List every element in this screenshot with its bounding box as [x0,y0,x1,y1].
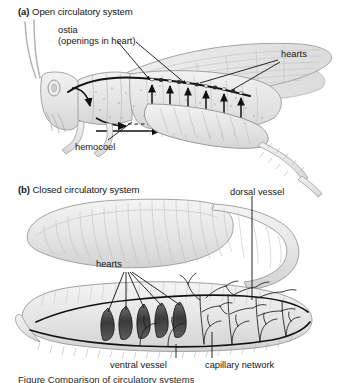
label-hearts-b: hearts [96,259,122,270]
label-ostia-line2: (openings in heart) [58,36,136,47]
label-dorsal-vessel: dorsal vessel [230,187,284,198]
earthworm-illustration [15,196,312,359]
label-ostia-line1: ostia [58,25,136,36]
label-hearts-a: hearts [281,49,307,60]
head [41,72,80,130]
label-ostia: ostia (openings in heart) [58,25,136,47]
figure-container: (a) Open circulatory system (b) Closed c… [0,0,344,383]
label-capillary-network: capillary network [205,360,274,371]
eye-pupil [51,84,56,92]
antennae [25,20,40,78]
label-hemocoel: hemocoel [75,142,115,153]
label-ventral-vessel: ventral vessel [110,360,167,371]
figure-caption-cutoff: Figure Comparison of circulatory systems [18,374,194,383]
